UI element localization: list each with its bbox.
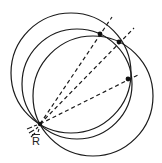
circle-a	[11, 13, 131, 133]
circle-c	[33, 36, 153, 156]
intersection-dot-3	[126, 77, 131, 82]
intersection-dot-1	[98, 32, 103, 37]
point-r	[38, 122, 42, 126]
diagram-canvas	[0, 0, 162, 163]
point-r-label: R	[32, 136, 40, 147]
intersection-dot-2	[117, 40, 122, 45]
point-r-label-text: R	[32, 135, 40, 147]
